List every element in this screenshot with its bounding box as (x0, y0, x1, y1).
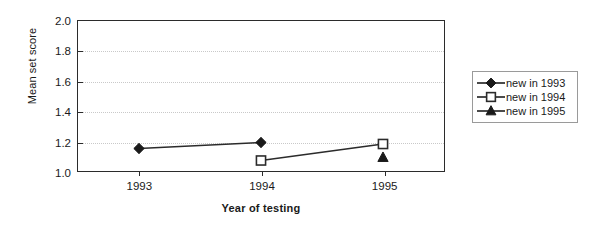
data-point-marker (256, 156, 265, 165)
data-point-marker (378, 139, 387, 148)
legend-item-label: new in 1995 (506, 104, 565, 118)
x-tick-mark (139, 171, 140, 176)
x-tick-label: 1995 (372, 180, 398, 192)
data-point-marker (256, 137, 266, 147)
x-tick-mark (262, 171, 263, 176)
data-point-marker (378, 152, 388, 162)
y-tick-label: 1.6 (55, 76, 71, 88)
x-tick-label: 1994 (249, 180, 275, 192)
legend-item[interactable]: new in 1994 (476, 90, 573, 104)
x-axis-title: Year of testing (77, 202, 445, 214)
legend-marker-open-square-icon (476, 90, 506, 104)
data-point-marker (134, 143, 144, 153)
chart-figure: Mean set score 1.01.21.41.61.82.01993199… (0, 0, 604, 230)
chart-legend: new in 1993new in 1994new in 1995 (472, 71, 578, 123)
legend-item[interactable]: new in 1995 (476, 104, 573, 118)
y-tick-label: 2.0 (55, 15, 71, 27)
y-tick-label: 1.8 (55, 45, 71, 57)
series-layer (78, 21, 444, 171)
legend-item[interactable]: new in 1993 (476, 76, 573, 90)
legend-item-label: new in 1994 (506, 90, 565, 104)
x-tick-mark (385, 171, 386, 176)
y-tick-label: 1.2 (55, 137, 71, 149)
x-tick-label: 1993 (127, 180, 153, 192)
legend-marker-filled-triangle-icon (476, 104, 506, 118)
series-line (261, 144, 383, 161)
y-tick-label: 1.0 (55, 167, 71, 179)
series-line (139, 143, 261, 149)
plot-area: 1.01.21.41.61.82.0199319941995 (77, 20, 445, 172)
y-tick-label: 1.4 (55, 106, 71, 118)
legend-item-label: new in 1993 (506, 76, 565, 90)
legend-marker-filled-diamond-icon (476, 76, 506, 90)
y-axis-title: Mean set score (26, 0, 38, 136)
